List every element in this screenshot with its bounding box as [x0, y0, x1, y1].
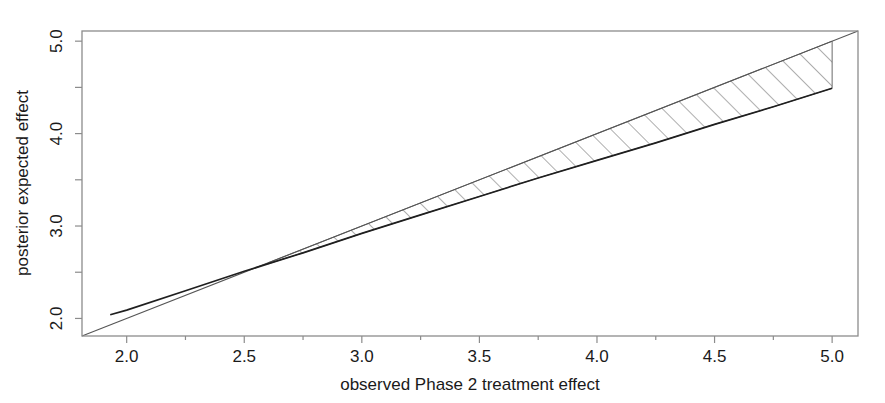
x-tick-label: 2.0 [115, 347, 139, 366]
x-axis-tick-labels: 2.0 2.5 3.0 3.5 4.0 4.5 5.0 [115, 347, 844, 366]
posterior-expected-effect-plot: 2.0 2.5 3.0 3.5 4.0 4.5 5.0 2.0 3.0 4.0 … [0, 0, 885, 403]
x-tick-label: 3.0 [350, 347, 374, 366]
y-tick-label: 5.0 [47, 29, 66, 53]
chart-page: 2.0 2.5 3.0 3.5 4.0 4.5 5.0 2.0 3.0 4.0 … [0, 0, 885, 403]
y-tick-label: 4.0 [47, 122, 66, 146]
y-axis-tick-labels: 2.0 3.0 4.0 5.0 [47, 29, 66, 330]
x-tick-label: 4.0 [585, 347, 609, 366]
x-tick-label: 3.5 [468, 347, 492, 366]
x-tick-label: 5.0 [820, 347, 844, 366]
y-tick-label: 2.0 [47, 307, 66, 331]
y-tick-label: 3.0 [47, 214, 66, 238]
x-tick-label: 2.5 [232, 347, 256, 366]
y-axis-ticks [75, 41, 82, 318]
y-axis-title: posterior expected effect [13, 90, 32, 276]
x-axis-major-ticks [127, 336, 832, 343]
x-tick-label: 4.5 [703, 347, 727, 366]
x-axis-title: observed Phase 2 treatment effect [340, 375, 600, 394]
